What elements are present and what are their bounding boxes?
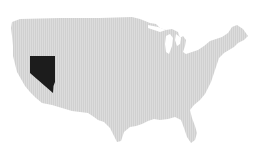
us-map — [0, 0, 259, 155]
